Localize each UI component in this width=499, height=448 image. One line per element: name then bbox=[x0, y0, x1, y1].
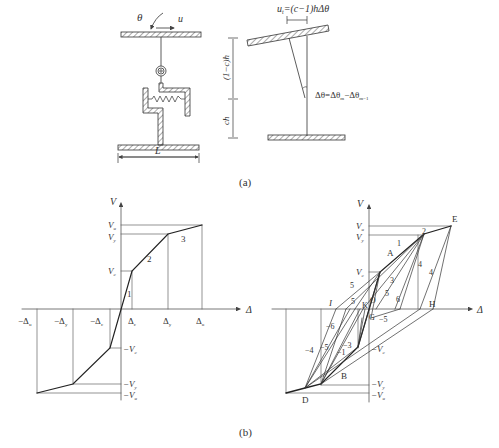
tick-dy: Δy bbox=[163, 316, 172, 327]
lower-height-label: ch bbox=[221, 116, 231, 125]
point-o: O bbox=[370, 296, 376, 305]
segment-label-2: 2 bbox=[147, 254, 152, 264]
width-label: L bbox=[154, 145, 161, 156]
segment-label-3: 3 bbox=[181, 234, 186, 244]
shear-spring-icon bbox=[148, 96, 185, 102]
tick-vc: Vc bbox=[356, 267, 365, 278]
tick-vc: Vc bbox=[108, 266, 117, 277]
tick-neg-vc: −Vc bbox=[371, 344, 386, 355]
point-k: K bbox=[362, 301, 368, 310]
offset-formula: ut=(c−1)hΔθ bbox=[277, 3, 329, 15]
path-label-neg3: −3 bbox=[343, 341, 352, 350]
caption-b: (b) bbox=[239, 426, 252, 439]
rotation-arrow-icon bbox=[151, 13, 163, 29]
upper-height-label: (1−c)h bbox=[221, 54, 231, 80]
path-label-neg5a: −5 bbox=[320, 343, 329, 352]
point-a: A bbox=[387, 248, 394, 258]
theta-label: θ bbox=[137, 11, 143, 23]
path-label-4b: 4 bbox=[429, 268, 433, 277]
right-bottom-plate bbox=[268, 135, 345, 140]
path-label-neg4: −4 bbox=[305, 346, 314, 355]
tick-neg-vc: −Vc bbox=[123, 344, 138, 355]
tick-vu: Vu bbox=[108, 220, 117, 231]
tick-neg-du: −Δu bbox=[18, 316, 32, 327]
path-label-2: 2 bbox=[422, 227, 426, 236]
figure-canvas: θ u L (1−c bbox=[0, 0, 499, 448]
tick-vy: Vy bbox=[108, 232, 117, 243]
x-axis-label: Δ bbox=[245, 304, 252, 315]
tick-neg-vu: −Vu bbox=[123, 390, 138, 401]
path-label-6: 6 bbox=[396, 295, 400, 304]
upper-bracket bbox=[159, 83, 190, 116]
skeleton-curve-chart: Δ V 1 2 3 Vu Vy Vc −Vc −Vy −Vu −Δu −Δy −… bbox=[18, 196, 252, 401]
tilted-top-plate bbox=[247, 25, 329, 46]
tick-neg-vy: −Vy bbox=[123, 379, 138, 390]
left-model: θ u L bbox=[118, 11, 201, 163]
path-label-4a: 4 bbox=[418, 260, 422, 269]
tick-dc: Δc bbox=[128, 316, 137, 327]
hysteresis-chart: Δ V bbox=[272, 198, 483, 405]
x-axis-label: Δ bbox=[476, 304, 483, 315]
rotation-formula: Δθ=Δθm−Δθm−1 bbox=[315, 90, 369, 101]
angle-arc-icon bbox=[303, 87, 307, 88]
right-model: (1−c)h ch ut=(c−1)hΔθ Δθ=Δθm−Δθm−1 bbox=[221, 3, 369, 140]
path-label-3: 3 bbox=[390, 276, 394, 285]
tick-neg-vu: −Vu bbox=[371, 390, 386, 401]
tick-vu: Vu bbox=[356, 221, 365, 232]
point-i: I bbox=[328, 298, 333, 308]
path-label-5a: 5 bbox=[350, 281, 354, 290]
y-axis-label: V bbox=[357, 198, 365, 209]
point-b: B bbox=[341, 371, 347, 381]
point-e: E bbox=[452, 214, 458, 224]
tick-vy: Vy bbox=[356, 232, 365, 243]
path-label-neg6: −6 bbox=[326, 322, 335, 331]
tick-neg-dy: −Δy bbox=[54, 316, 68, 327]
u-label: u bbox=[178, 13, 183, 24]
tick-du: Δu bbox=[196, 316, 205, 327]
rotated-column bbox=[289, 38, 305, 98]
tick-neg-dc: −Δc bbox=[90, 316, 104, 327]
path-label-1: 1 bbox=[397, 239, 401, 248]
rotational-spring-icon bbox=[156, 66, 166, 83]
point-d: D bbox=[302, 395, 309, 405]
point-h: H bbox=[429, 299, 436, 309]
point-g: G bbox=[369, 313, 375, 322]
path-label-5b: 5 bbox=[351, 297, 355, 306]
tick-neg-vy: −Vy bbox=[371, 379, 386, 390]
segment-label-1: 1 bbox=[127, 289, 132, 299]
hysteresis-skeleton bbox=[286, 226, 451, 393]
top-plate bbox=[121, 32, 201, 37]
caption-a: (a) bbox=[239, 176, 252, 189]
path-label-5c: 5 bbox=[385, 289, 389, 298]
path-label-neg5b: −5 bbox=[379, 315, 388, 324]
y-axis-label: V bbox=[110, 196, 118, 207]
